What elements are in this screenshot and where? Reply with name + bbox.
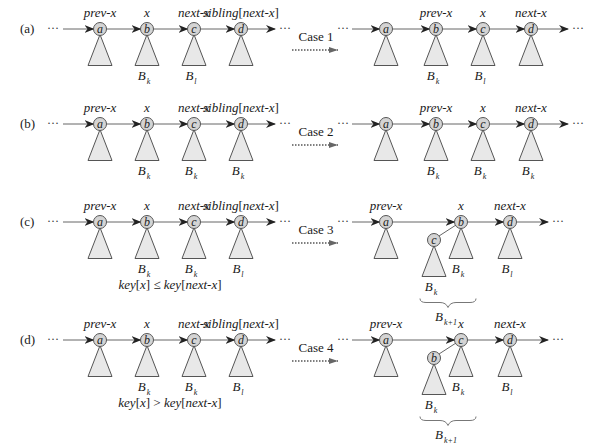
subtree-triangle (519, 35, 543, 66)
subtree-triangle (182, 35, 206, 66)
pointer-label: prev-x (369, 198, 403, 213)
pointer-label: x (143, 198, 150, 213)
ellipsis: ··· (279, 21, 291, 35)
node-label: c (191, 333, 197, 347)
order-label: Bl (501, 261, 513, 279)
case-label: Case 2 (298, 124, 333, 139)
order-label: Bk (425, 279, 438, 297)
pointer-label: next-x (515, 100, 547, 115)
node-label: d (507, 333, 514, 347)
node-label: b (144, 333, 150, 347)
node-label: d (238, 22, 245, 36)
subtree-triangle (229, 130, 253, 161)
case-label: Case 1 (298, 29, 333, 44)
ellipsis: ··· (47, 214, 59, 228)
order-label: Bk (427, 68, 440, 86)
subtree-triangle (374, 130, 398, 161)
node-label: a (383, 117, 389, 131)
pointer-label: sibling[next-x] (203, 5, 279, 20)
pointer-label: sibling[next-x] (203, 316, 279, 331)
subtree-triangle (135, 228, 159, 259)
node-label: b (433, 22, 439, 36)
case-row-c: (c)······aprev-xbxBkcnext-xBkdsibling[ne… (20, 198, 564, 327)
subtree-triangle (519, 130, 543, 161)
order-label: Bl (232, 379, 244, 397)
subtree-triangle (422, 246, 446, 277)
pointer-label: x (479, 100, 486, 115)
subtree-triangle (498, 228, 522, 259)
pointer-label: x (143, 5, 150, 20)
pointer-label: next-x (494, 316, 526, 331)
node-label: b (431, 351, 437, 365)
subtree-triangle (88, 130, 112, 161)
merge-brace (420, 299, 476, 308)
merge-brace (420, 417, 476, 426)
pointer-label: x (479, 5, 486, 20)
node-label: c (191, 117, 197, 131)
pointer-label: x (457, 198, 464, 213)
node-label: a (97, 215, 103, 229)
order-label: Bk (185, 163, 198, 181)
subtree-triangle (449, 228, 473, 259)
order-label: Bl (501, 379, 513, 397)
pointer-label: prev-x (83, 198, 117, 213)
order-label: Bl (232, 261, 244, 279)
pointer-label: sibling[next-x] (203, 198, 279, 213)
ellipsis: ··· (337, 21, 349, 35)
order-label: Bk+1 (435, 427, 457, 445)
node-label: d (528, 117, 535, 131)
ellipsis: ··· (47, 21, 59, 35)
node-label: c (191, 215, 197, 229)
ellipsis: ··· (47, 116, 59, 130)
order-label: Bk (522, 163, 535, 181)
order-label: Bl (474, 68, 486, 86)
ellipsis: ··· (572, 21, 584, 35)
subtree-triangle (422, 364, 446, 395)
row-label: (a) (20, 21, 34, 36)
node-label: d (238, 333, 245, 347)
ellipsis: ··· (337, 116, 349, 130)
pointer-label: x (143, 316, 150, 331)
child-link (439, 343, 456, 354)
child-link (439, 225, 456, 236)
subtree-triangle (182, 346, 206, 377)
pointer-label: prev-x (83, 316, 117, 331)
ellipsis: ··· (47, 332, 59, 346)
node-label: d (528, 22, 535, 36)
order-label: Bk (427, 163, 440, 181)
node-label: a (383, 215, 389, 229)
key-condition: key[x] ≤ key[next-x] (118, 277, 221, 292)
node-label: b (458, 215, 464, 229)
node-label: c (431, 233, 437, 247)
subtree-triangle (449, 346, 473, 377)
subtree-triangle (374, 346, 398, 377)
ellipsis: ··· (279, 332, 291, 346)
subtree-triangle (182, 130, 206, 161)
order-label: Bk+1 (435, 309, 457, 327)
order-label: Bk (474, 163, 487, 181)
subtree-triangle (424, 130, 448, 161)
node-label: a (97, 333, 103, 347)
pointer-label: x (457, 316, 464, 331)
subtree-triangle (88, 35, 112, 66)
ellipsis: ··· (337, 332, 349, 346)
case-row-a: (a)······aprev-xbxBkcnext-xBldsibling[ne… (20, 5, 584, 86)
subtree-triangle (182, 228, 206, 259)
node-label: d (238, 215, 245, 229)
order-label: Bk (452, 261, 465, 279)
subtree-triangle (374, 228, 398, 259)
ellipsis: ··· (279, 116, 291, 130)
ellipsis: ··· (552, 332, 564, 346)
case-row-d: (d)······aprev-xbxBkcnext-xBkdsibling[ne… (20, 316, 564, 445)
subtree-triangle (424, 35, 448, 66)
row-label: (c) (20, 214, 34, 229)
subtree-triangle (135, 35, 159, 66)
pointer-label: prev-x (83, 5, 117, 20)
node-label: d (507, 215, 514, 229)
pointer-label: x (143, 100, 150, 115)
row-label: (d) (20, 332, 35, 347)
ellipsis: ··· (552, 214, 564, 228)
ellipsis: ··· (279, 214, 291, 228)
pointer-label: prev-x (83, 100, 117, 115)
node-label: a (383, 22, 389, 36)
